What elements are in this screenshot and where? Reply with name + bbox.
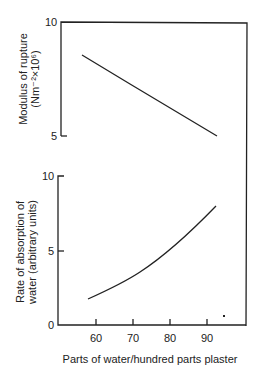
bottom-y-label-5: 5 xyxy=(48,245,54,257)
modulus-of-rupture-curve xyxy=(82,55,217,136)
top-y-axis-title-line2: (Nm⁻²×10⁶) xyxy=(29,50,41,107)
x-axis-title: Parts of water/hundred parts plaster xyxy=(63,353,238,365)
x-label-70: 70 xyxy=(127,332,139,344)
x-label-60: 60 xyxy=(90,332,102,344)
top-y-axis-title-line1: Modulus of rupture xyxy=(17,33,29,125)
chart-canvas: 10 5 Modulus of rupture (Nm⁻²×10⁶) 10 5 … xyxy=(0,0,260,384)
bottom-y-axis-title-line2: water (arbitrary units) xyxy=(26,200,38,305)
stray-dot xyxy=(223,315,225,317)
x-label-90: 90 xyxy=(201,332,213,344)
bottom-chart-axes xyxy=(58,176,246,325)
top-y-label-10: 10 xyxy=(45,16,57,28)
x-label-80: 80 xyxy=(164,332,176,344)
top-chart-frame xyxy=(61,22,247,326)
bottom-y-axis-title-line1: Rate of absorption of xyxy=(14,200,26,303)
bottom-y-label-10: 10 xyxy=(42,170,54,182)
bottom-y-label-0: 0 xyxy=(48,319,54,331)
top-y-label-5: 5 xyxy=(51,130,57,142)
absorption-rate-curve xyxy=(88,206,216,299)
